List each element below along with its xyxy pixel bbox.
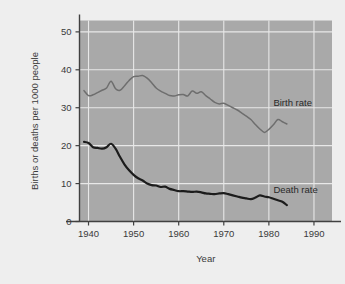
annotation-death-rate: Death rate xyxy=(273,184,317,195)
y-tick-label: 50 xyxy=(61,26,72,37)
x-tick-label: 1970 xyxy=(213,228,234,239)
y-tick-label: 30 xyxy=(61,102,72,113)
y-tick-label: 0 xyxy=(66,216,71,227)
births-deaths-line-chart: 194019501960197019801990 01020304050 Bir… xyxy=(0,0,345,284)
x-tick-label: 1990 xyxy=(303,228,324,239)
x-axis-title: Year xyxy=(196,253,215,264)
y-axis-title: Births or deaths per 1000 people xyxy=(29,52,40,190)
y-tick-label: 40 xyxy=(61,64,72,75)
annotation-birth-rate: Birth rate xyxy=(273,97,312,108)
y-tick-label: 10 xyxy=(61,178,72,189)
x-tick-label: 1960 xyxy=(168,228,189,239)
x-tick-label: 1940 xyxy=(78,228,99,239)
y-tick-label: 20 xyxy=(61,140,72,151)
x-tick-label: 1980 xyxy=(258,228,279,239)
chart-figure: 194019501960197019801990 01020304050 Bir… xyxy=(0,0,345,284)
x-tick-label: 1950 xyxy=(123,228,144,239)
